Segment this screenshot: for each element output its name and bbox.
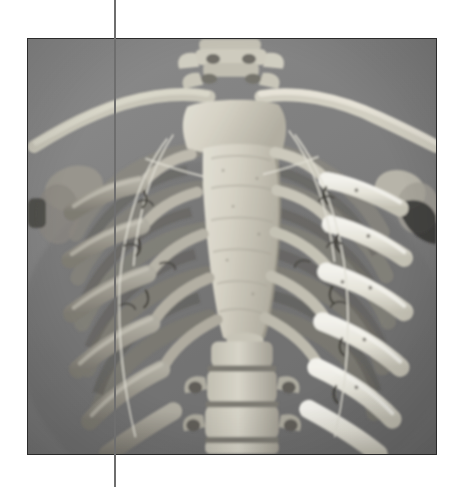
vertical-crop-line bbox=[114, 0, 116, 487]
skeleton-photograph: Grayscale photograph of an articulated h… bbox=[27, 38, 437, 455]
page-canvas: Grayscale photograph of an articulated h… bbox=[0, 0, 456, 487]
thorax-model-illustration bbox=[28, 39, 436, 454]
